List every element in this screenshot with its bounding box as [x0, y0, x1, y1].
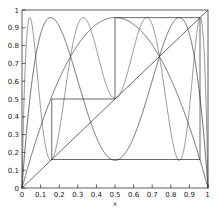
- x-tick-label: 0.2: [54, 191, 65, 199]
- x-tick-label: 1: [205, 191, 209, 199]
- x-tick-label: 0.6: [128, 191, 140, 199]
- x-tick-label: 0.5: [109, 191, 120, 199]
- y-tick-labels: 0 0.1 0.2 0.3 0.4 0.5 0.6 0.7 0.8 0.9 1: [8, 7, 20, 193]
- y-tick-label: 0.5: [8, 96, 19, 104]
- x-tick-label: 0.8: [165, 191, 176, 199]
- y-tick-label: 0: [15, 185, 19, 193]
- y-tick-label: 0.7: [8, 60, 19, 68]
- y-tick-label: 0.3: [8, 131, 19, 139]
- x-tick-label: 0.7: [147, 191, 158, 199]
- y-tick-label: 0.4: [8, 113, 20, 121]
- y-tick-label: 0.6: [8, 78, 20, 86]
- plot-canvas: 0 0.1 0.2 0.3 0.4 0.5 0.6 0.7 0.8 0.9 1 …: [0, 0, 218, 209]
- y-tick-label: 0.1: [8, 167, 19, 175]
- x-tick-label: 0.3: [72, 191, 83, 199]
- y-tick-label: 0.8: [8, 42, 19, 50]
- x-axis-title: x: [113, 200, 117, 208]
- logistic-map-cobweb-figure: 0 0.1 0.2 0.3 0.4 0.5 0.6 0.7 0.8 0.9 1 …: [0, 0, 218, 209]
- x-tick-label: 0.4: [91, 191, 103, 199]
- y-tick-label: 1: [15, 7, 19, 15]
- x-tick-labels: 0 0.1 0.2 0.3 0.4 0.5 0.6 0.7 0.8 0.9 1: [20, 191, 210, 199]
- x-tick-label: 0.9: [184, 191, 195, 199]
- y-tick-label: 0.9: [8, 24, 19, 32]
- x-tick-label: 0: [20, 191, 24, 199]
- y-tick-label: 0.2: [8, 149, 19, 157]
- x-tick-label: 0.1: [35, 191, 46, 199]
